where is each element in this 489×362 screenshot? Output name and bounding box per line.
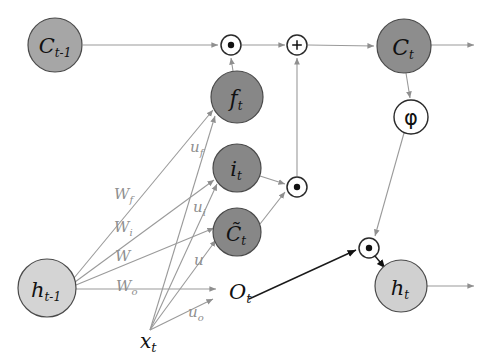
weight-label-w-f: Wf: [114, 185, 135, 205]
weight-label-w-i: Wi: [114, 218, 133, 238]
label-x-t: xt: [140, 329, 157, 355]
node-i-gate[interactable]: it: [213, 144, 261, 192]
node-f-gate[interactable]: ft: [211, 71, 263, 123]
operator-add-cell[interactable]: [287, 35, 307, 55]
phi-glyph: φ: [404, 106, 418, 130]
node-layer: Ct-1 ft it C̃t Ct ht-1: [18, 18, 431, 317]
dot-glyph: [294, 184, 300, 190]
node-h-prev[interactable]: ht-1: [18, 259, 76, 317]
dot-glyph: [366, 245, 372, 251]
edge-add-to-cnext: [308, 45, 374, 46]
edge-cnext-to-phi: [406, 73, 410, 98]
dot-glyph: [228, 42, 234, 48]
edge-hprev-to-fgate: [74, 110, 213, 278]
node-c-next[interactable]: Ct: [377, 19, 431, 73]
weight-label-u-c: u: [194, 251, 204, 269]
node-c-tilde[interactable]: C̃t: [213, 208, 261, 256]
weight-label-layer: Wf Wi W Wo uf ui u uo: [114, 138, 206, 323]
weight-label-u-i: ui: [193, 198, 206, 218]
operator-phi-activation[interactable]: φ: [394, 100, 428, 134]
edge-igate-to-mul-input: [260, 176, 285, 184]
weight-label-w-c: W: [115, 247, 132, 265]
operator-mul-input[interactable]: [287, 177, 307, 197]
node-c-prev[interactable]: Ct-1: [28, 18, 82, 72]
edge-xt-to-igate: [150, 184, 217, 330]
lstm-diagram: Ct-1 ft it C̃t Ct ht-1: [0, 0, 489, 362]
edge-ctilde-to-mul-input: [260, 192, 285, 224]
operator-mul-forget[interactable]: [221, 35, 241, 55]
node-h-next[interactable]: ht: [375, 260, 427, 312]
weight-label-u-o: uo: [188, 303, 204, 323]
edge-phi-to-mul-output: [375, 133, 404, 236]
lstm-diagram-canvas: Ct-1 ft it C̃t Ct ht-1: [0, 0, 489, 362]
weight-label-u-f: uf: [190, 138, 206, 158]
label-o-t: Ot: [229, 280, 252, 306]
edge-xt-to-ctilde: [150, 240, 216, 330]
operator-mul-output[interactable]: [359, 238, 379, 258]
edge-fgate-to-mul-forget: [231, 58, 233, 71]
edge-xt-to-fgate: [150, 116, 215, 330]
weight-label-w-o: Wo: [116, 277, 137, 297]
edge-ot-to-mul-output: [249, 250, 356, 299]
